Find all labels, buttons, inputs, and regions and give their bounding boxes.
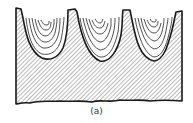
cross-section-diagram (0, 0, 193, 123)
figure-caption: (a) (0, 106, 193, 116)
